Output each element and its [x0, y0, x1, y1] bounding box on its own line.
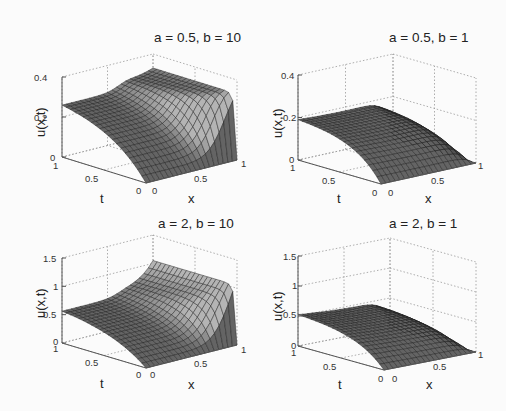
x-tick: 0 — [388, 187, 393, 198]
x-tick: 0 — [150, 369, 155, 380]
t-tick: 0 — [378, 373, 383, 384]
t-axis-label: t — [338, 377, 342, 392]
t-tick: 0 — [136, 185, 141, 196]
t-tick: 1 — [290, 162, 295, 173]
x-tick: 1 — [478, 349, 483, 360]
figure-canvas: a = 0.5, b = 10 0.4 0.2 0 1 0.5 0 0 0.5 … — [0, 0, 506, 411]
x-tick: 1 — [241, 344, 246, 355]
plot-title: a = 2, b = 10 — [158, 216, 234, 231]
z-tick: 1.5 — [43, 253, 56, 264]
x-axis-label: x — [425, 191, 432, 206]
z-axis-label: u(x,t) — [33, 288, 48, 318]
surface-plot-a2-b1: a = 2, b = 1 1.5 1 0.5 0 1 0.5 0 0 0.5 1… — [270, 216, 483, 392]
x-tick: 1 — [478, 160, 483, 171]
z-tick: 1 — [292, 280, 297, 291]
z-tick: 1.5 — [283, 251, 296, 262]
z-axis-label: u(x,t) — [270, 291, 285, 321]
z-tick: 0.4 — [34, 72, 47, 83]
z-axis-label: u(x,t) — [270, 108, 285, 138]
z-tick: 1 — [53, 281, 58, 292]
t-tick: 1 — [291, 347, 296, 358]
surface-plot-a2-b10: a = 2, b = 10 1.5 1 0.5 0 1 0.5 0 0 0.5 … — [33, 216, 246, 392]
x-axis-label: x — [188, 377, 195, 392]
z-axis-label: u(x,t) — [33, 107, 48, 137]
x-tick: 0.5 — [194, 173, 207, 184]
t-axis-label: t — [337, 191, 341, 206]
surface-mesh — [298, 106, 476, 185]
surface-plot-a0.5-b10: a = 0.5, b = 10 0.4 0.2 0 1 0.5 0 0 0.5 … — [33, 30, 246, 206]
t-tick: 0.5 — [323, 361, 336, 372]
surface-mesh — [62, 68, 237, 183]
t-tick: 0 — [372, 187, 377, 198]
t-tick: 1 — [53, 160, 58, 171]
surface-plot-a0.5-b1: a = 0.5, b = 1 0.4 0.2 0 1 0.5 0 0 0.5 1… — [270, 30, 483, 206]
x-tick: 0 — [152, 185, 157, 196]
t-tick: 0 — [136, 369, 141, 380]
plot-title: a = 0.5, b = 10 — [154, 30, 241, 45]
plot-title: a = 2, b = 1 — [389, 216, 457, 231]
t-tick: 0.5 — [85, 173, 98, 184]
t-tick: 0.5 — [85, 357, 98, 368]
x-axis-label: x — [426, 377, 433, 392]
x-tick: 0.5 — [431, 175, 444, 186]
t-axis-label: t — [100, 191, 104, 206]
t-tick: 1 — [53, 343, 58, 354]
x-tick: 0.5 — [194, 358, 207, 369]
t-axis-label: t — [100, 376, 104, 391]
x-axis-label: x — [188, 191, 195, 206]
plot-title: a = 0.5, b = 1 — [389, 30, 469, 45]
t-tick: 0.5 — [322, 175, 335, 186]
x-tick: 0 — [392, 373, 397, 384]
x-tick: 1 — [241, 158, 246, 169]
x-tick: 0.5 — [433, 361, 446, 372]
z-tick: 0.4 — [281, 70, 294, 81]
